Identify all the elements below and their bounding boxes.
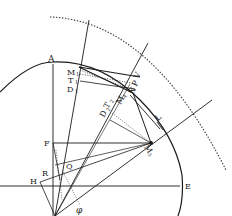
label-L: L — [153, 112, 163, 123]
label-M1-sub: 1 — [76, 71, 79, 77]
label-D1-sub: 1 — [75, 88, 78, 94]
line-F-slant — [53, 143, 60, 180]
label-T2-sub: 2 — [108, 98, 115, 104]
label-T1: T — [68, 76, 74, 85]
line-D2-M5 — [110, 120, 151, 143]
label-Q: Q — [66, 162, 73, 171]
main-circle-arc — [0, 62, 183, 216]
label-T1-sub: 1 — [75, 79, 78, 85]
label-phi: φ — [76, 205, 83, 215]
label-F: F — [44, 139, 50, 148]
line-M4-M5 — [133, 93, 151, 143]
label-D1: D — [67, 85, 73, 94]
line-L-M5 — [130, 95, 160, 129]
label-V: V — [132, 71, 143, 81]
ray-through-M5-L — [55, 100, 212, 216]
geometric-diagram: A M 1 T 1 D 1 V P N M 4 T 2 D 2 L M 5 F … — [0, 0, 232, 216]
label-E: E — [185, 182, 191, 191]
label-H: H — [30, 177, 37, 186]
label-A: A — [47, 54, 55, 64]
label-R: R — [42, 169, 49, 178]
